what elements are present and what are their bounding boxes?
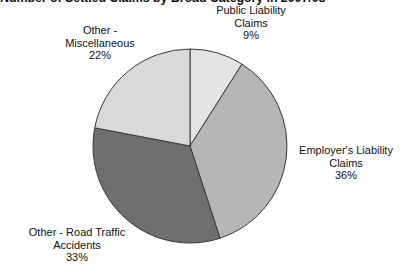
- pie-label-public-liability-percent: 9%: [197, 29, 305, 42]
- pie-label-road-traffic-accidents-line2: Accidents: [2, 239, 152, 252]
- pie-label-miscellaneous-line2: Miscellaneous: [42, 37, 158, 50]
- pie-label-road-traffic-accidents: Other - Road Traffic Accidents 33%: [2, 226, 152, 264]
- pie-label-miscellaneous-percent: 22%: [42, 49, 158, 62]
- pie-label-miscellaneous: Other - Miscellaneous 22%: [42, 24, 158, 62]
- pie-label-employers-liability: Employer's Liability Claims 36%: [288, 144, 402, 182]
- pie-chart: Number of Settled Claims by Broad Catego…: [0, 0, 402, 274]
- pie-label-miscellaneous-line1: Other -: [42, 24, 158, 37]
- pie-label-public-liability: Public Liability Claims 9%: [197, 4, 305, 42]
- pie-label-road-traffic-accidents-percent: 33%: [2, 251, 152, 264]
- pie-label-road-traffic-accidents-line1: Other - Road Traffic: [2, 226, 152, 239]
- pie-label-employers-liability-percent: 36%: [288, 169, 402, 182]
- pie-label-employers-liability-line2: Claims: [288, 157, 402, 170]
- pie-label-public-liability-line1: Public Liability: [197, 4, 305, 17]
- pie-label-public-liability-line2: Claims: [197, 17, 305, 30]
- pie-label-employers-liability-line1: Employer's Liability: [288, 144, 402, 157]
